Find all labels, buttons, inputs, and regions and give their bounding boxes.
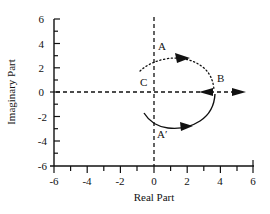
y-tick-2: 2 [39, 62, 45, 74]
nyquist-diagram: 6 4 2 0 -2 -4 -6 -6 -4 -2 0 2 4 [0, 0, 270, 214]
x-tick-neg6: -6 [49, 175, 59, 187]
lower-arc-arrow-icon [180, 122, 193, 131]
y-tick-neg6: -6 [38, 160, 48, 172]
right-arrow-icon [232, 88, 246, 96]
x-tick-4: 4 [217, 175, 223, 187]
x-tick-2: 2 [184, 175, 190, 187]
x-tick-0: 0 [151, 175, 157, 187]
x-tick-neg2: -2 [115, 175, 124, 187]
y-tick-6: 6 [39, 13, 45, 25]
label-B: B [217, 72, 224, 84]
label-A: A [158, 40, 166, 52]
y-tick-0: 0 [39, 86, 45, 98]
left-arrow-icon [199, 88, 213, 96]
upper-arc-arrow-icon [175, 53, 190, 63]
label-C: C [140, 76, 147, 88]
y-tick-neg2: -2 [38, 111, 47, 123]
y-tick-4: 4 [39, 38, 45, 50]
y-axis-title: Imaginary Part [5, 59, 17, 125]
x-axis: -6 -4 -2 0 2 4 6 [49, 160, 256, 187]
x-axis-title: Real Part [134, 191, 175, 203]
y-tick-neg4: -4 [38, 135, 48, 147]
label-A-prime: A′ [157, 128, 167, 140]
x-tick-neg4: -4 [82, 175, 92, 187]
x-tick-6: 6 [250, 175, 256, 187]
